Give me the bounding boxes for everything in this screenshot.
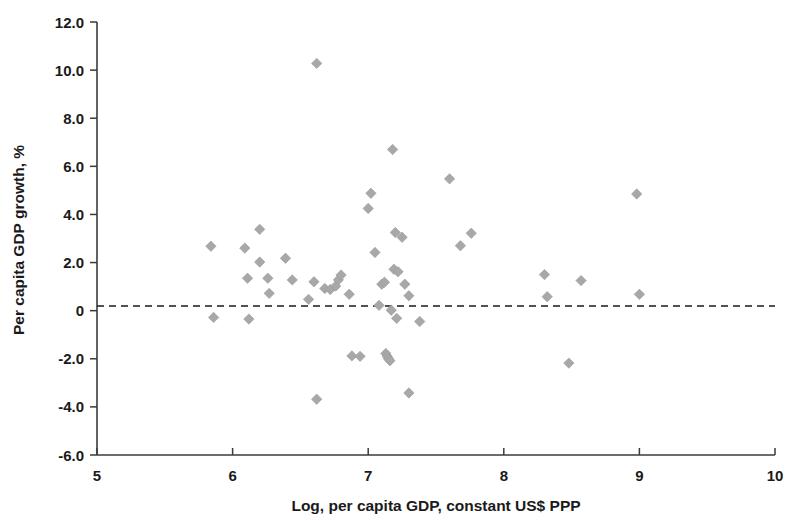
data-point-marker: [255, 224, 265, 234]
data-point-marker: [444, 174, 454, 184]
y-axis-title: Per capita GDP growth, %: [10, 145, 27, 335]
data-points-group: [206, 58, 645, 404]
y-tick-label: -2.0: [58, 350, 84, 367]
y-tick-label: -4.0: [58, 398, 84, 415]
x-tick-label: 7: [364, 467, 372, 484]
x-tick-label: 10: [767, 467, 784, 484]
data-point-marker: [255, 257, 265, 267]
data-point-marker: [303, 294, 313, 304]
data-point-marker: [400, 279, 410, 289]
data-point-marker: [355, 351, 365, 361]
data-point-marker: [240, 243, 250, 253]
data-point-marker: [542, 292, 552, 302]
y-axis-tick-marks: [90, 22, 97, 455]
data-point-marker: [311, 58, 321, 68]
data-point-marker: [415, 316, 425, 326]
data-point-marker: [363, 203, 373, 213]
data-point-marker: [404, 388, 414, 398]
data-point-marker: [242, 273, 252, 283]
x-tick-label: 6: [228, 467, 236, 484]
y-tick-label: 10.0: [55, 62, 84, 79]
y-tick-label: 0: [76, 302, 84, 319]
data-point-marker: [208, 312, 218, 322]
y-tick-label: 4.0: [63, 206, 84, 223]
data-point-marker: [366, 188, 376, 198]
data-point-marker: [466, 228, 476, 238]
y-axis-tick-labels: -6.0-4.0-2.002.04.06.08.010.012.0: [55, 14, 84, 464]
data-point-marker: [404, 291, 414, 301]
data-point-marker: [370, 247, 380, 257]
data-point-marker: [391, 313, 401, 323]
data-point-marker: [263, 273, 273, 283]
y-tick-label: 2.0: [63, 254, 84, 271]
y-tick-label: 12.0: [55, 14, 84, 31]
x-axis-tick-labels: 5678910: [93, 467, 784, 484]
y-tick-label: -6.0: [58, 447, 84, 464]
y-tick-label: 8.0: [63, 110, 84, 127]
data-point-marker: [387, 144, 397, 154]
data-point-marker: [564, 358, 574, 368]
data-point-marker: [287, 275, 297, 285]
y-axis-title-group: Per capita GDP growth, %: [10, 145, 27, 335]
x-tick-label: 9: [635, 467, 643, 484]
y-tick-label: 6.0: [63, 158, 84, 175]
data-point-marker: [344, 289, 354, 299]
data-point-marker: [631, 189, 641, 199]
data-point-marker: [309, 277, 319, 287]
data-point-marker: [374, 300, 384, 310]
data-point-marker: [206, 241, 216, 251]
data-point-marker: [455, 241, 465, 251]
data-point-marker: [634, 289, 644, 299]
plot-canvas: Per capita GDP growth, % -6.0-4.0-2.002.…: [0, 0, 795, 521]
data-point-marker: [311, 394, 321, 404]
scatter-chart-figure: Per capita GDP growth, % -6.0-4.0-2.002.…: [0, 0, 795, 521]
data-point-marker: [280, 253, 290, 263]
x-axis-tick-marks: [97, 448, 775, 455]
x-axis-title: Log, per capita GDP, constant US$ PPP: [291, 497, 580, 514]
data-point-marker: [244, 314, 254, 324]
data-point-marker: [576, 275, 586, 285]
x-tick-label: 5: [93, 467, 101, 484]
data-point-marker: [539, 269, 549, 279]
data-point-marker: [264, 288, 274, 298]
x-tick-label: 8: [500, 467, 508, 484]
